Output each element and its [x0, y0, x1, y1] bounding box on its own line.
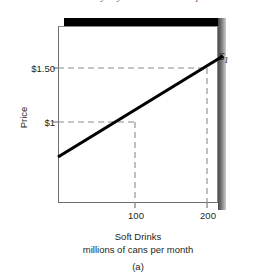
y-axis-tick-label-100: $1: [6, 117, 55, 128]
x-axis-title: Soft Drinks millions of cans per month: [58, 231, 218, 256]
x-axis-tick-label-200: 200: [188, 210, 228, 221]
supply-curve-label: S1: [219, 50, 228, 65]
y-axis-title: Price: [18, 88, 29, 148]
x-axis-title-line1: Soft Drinks: [115, 231, 161, 242]
y-axis-tick-label-150: $1.50: [6, 63, 55, 74]
x-axis-title-line2: millions of cans per month: [58, 244, 218, 257]
panel-letter: (a): [58, 261, 218, 272]
supply-curve-label-subscript: 1: [225, 56, 229, 65]
x-axis-tick-label-100: 100: [116, 210, 156, 221]
plot-right-shadow-bar: [218, 18, 226, 210]
supply-curve-figure: $1.50 $1 100 200 Price Soft Drinks milli…: [0, 0, 265, 280]
plot-top-shadow-bar: [64, 18, 225, 26]
supply-curve-s1: [58, 56, 223, 157]
plot-canvas: [58, 26, 218, 203]
